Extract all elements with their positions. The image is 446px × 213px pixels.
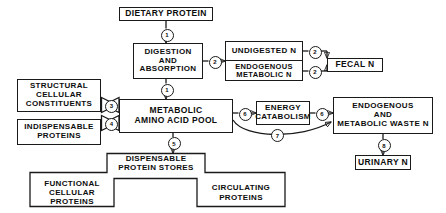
bidirectional-connector-indispensable: 4	[101, 113, 121, 133]
edge-label-waste-to-urinary: 8	[378, 139, 391, 152]
node-urinary-n: URINARY N	[355, 155, 411, 170]
node-fecal-n: FECAL N	[327, 58, 383, 72]
edge-label-catabolism-to-waste: 6	[316, 108, 329, 121]
node-digestion-and-absorption: DIGESTION AND ABSORPTION	[133, 43, 203, 79]
node-metabolic-amino-acid-pool: METABOLIC AMINO ACID POOL	[119, 99, 233, 133]
node-structural-cellular-constituents: STRUCTURAL CELLULAR CONSTITUENTS	[17, 79, 101, 112]
edge-label-endogenous-to-fecal: 2	[309, 66, 322, 79]
edge-label-pool-to-catabolism: 6	[239, 108, 252, 121]
edge-label-indispensable-to-pool: 4	[105, 118, 118, 131]
node-endogenous-metabolic-n: ENDOGENOUS METABOLIC N	[226, 61, 302, 80]
edge-label-digestion-to-undigested: 2	[209, 56, 222, 69]
node-nitrogen-loss-stack: UNDIGESTED N ENDOGENOUS METABOLIC N	[225, 41, 303, 81]
edge-label-structural-to-pool: 3	[105, 100, 118, 113]
node-dietary-protein: DIETARY PROTEIN	[119, 7, 213, 21]
edge-label-pool-to-waste-bypass: 7	[271, 129, 284, 142]
node-endogenous-and-metabolic-waste-n: ENDOGENOUS AND METABOLIC WASTE N	[333, 97, 433, 134]
edge-label-pool-to-stores: 5	[168, 137, 181, 150]
node-energy-catabolism: ENERGY CATABOLISM	[256, 101, 310, 125]
edge-label-dietary-to-digestion: 1	[161, 29, 174, 42]
node-indispensable-proteins: INDISPENSABLE PROTEINS	[17, 119, 101, 145]
bidirectional-connector-structural: 3	[101, 95, 121, 115]
edge-label-undigested-to-fecal: 2	[309, 46, 322, 59]
node-circulating-proteins: CIRCULATING PROTEINS	[198, 179, 284, 206]
diagram-canvas: DIETARY PROTEIN DIGESTION AND ABSORPTION…	[0, 0, 446, 213]
node-undigested-n: UNDIGESTED N	[226, 42, 302, 61]
node-functional-cellular-proteins: FUNCTIONAL CELLULAR PROTEINS	[31, 179, 113, 206]
edge-label-digestion-to-pool: 1	[161, 84, 174, 97]
node-dispensable-protein-stores: DISPENSABLE PROTEIN STORES	[107, 154, 205, 173]
